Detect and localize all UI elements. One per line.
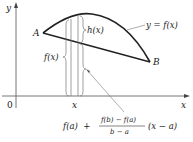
axes: y x 0: [2, 2, 190, 110]
y-axis-label: y: [5, 3, 12, 13]
x-axis-arrow-icon: [184, 94, 190, 98]
brace-secant: [80, 44, 86, 96]
x-axis-label: x: [181, 100, 186, 110]
y-axis-arrow-icon: [14, 2, 18, 8]
secant-formula: f(a) + f(b) − f(a) b − a (x − a): [62, 116, 177, 136]
curve-label: y = f(x): [145, 20, 178, 30]
formula-tail: (x − a): [148, 121, 177, 131]
brace-h: [80, 16, 86, 43]
mean-value-theorem-diagram: y x 0 A B y = f(x) h(x) f(x) x f(a) + f(…: [0, 0, 193, 142]
point-a-label: A: [32, 28, 40, 38]
formula-denominator: b − a: [110, 128, 129, 136]
formula-numerator: f(b) − f(a): [100, 116, 136, 124]
brace-f: [63, 20, 69, 96]
point-b-label: B: [152, 57, 160, 67]
secant-line-ab: [43, 33, 150, 62]
curve-label-leader: [127, 25, 145, 30]
h-brace-label: h(x): [87, 25, 104, 35]
origin-label: 0: [7, 100, 13, 110]
formula-leader: [87, 70, 124, 112]
x-point-label: x: [72, 100, 77, 110]
f-brace-label: f(x): [43, 52, 59, 62]
formula-lead: f(a) +: [62, 121, 90, 131]
